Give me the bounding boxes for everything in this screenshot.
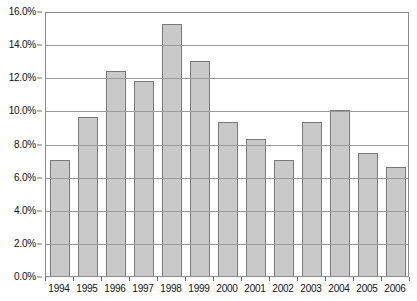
gridline (46, 178, 408, 179)
x-tick-mark (101, 277, 102, 281)
gridline (46, 111, 408, 112)
x-tick-mark (409, 277, 410, 281)
y-tick-mark (37, 111, 42, 112)
y-tick-label: 8.0% (14, 140, 36, 150)
x-tick-mark (325, 277, 326, 281)
x-tick-label: 2001 (244, 283, 265, 295)
x-tick-label: 2003 (300, 283, 321, 295)
bar (386, 167, 406, 276)
x-tick-label: 1997 (132, 283, 153, 295)
bar (358, 153, 378, 276)
x-tick-mark (353, 277, 354, 281)
y-tick-mark (37, 277, 42, 278)
x-tick-mark (45, 277, 46, 281)
y-tick-label: 16.0% (9, 7, 36, 17)
y-tick-mark (37, 177, 42, 178)
gridline (46, 45, 408, 46)
x-tick-mark (185, 277, 186, 281)
y-tick-label: 14.0% (9, 40, 36, 50)
x-tick-label: 2005 (356, 283, 377, 295)
bar-chart: 0.0%2.0%4.0%6.0%8.0%10.0%12.0%14.0%16.0%… (0, 0, 417, 301)
x-tick-label: 1995 (76, 283, 97, 295)
x-tick-label: 1994 (48, 283, 69, 295)
x-tick-label: 1996 (104, 283, 125, 295)
x-tick-mark (381, 277, 382, 281)
y-axis: 0.0%2.0%4.0%6.0%8.0%10.0%12.0%14.0%16.0% (0, 0, 45, 301)
y-tick-label: 0.0% (14, 272, 36, 282)
y-tick-mark (37, 210, 42, 211)
x-tick-label: 1998 (160, 283, 181, 295)
gridline (46, 78, 408, 79)
x-tick-mark (297, 277, 298, 281)
x-tick-mark (213, 277, 214, 281)
y-tick-mark (37, 144, 42, 145)
plot-area (45, 12, 409, 277)
x-tick-label: 1999 (188, 283, 209, 295)
x-tick-label: 2006 (384, 283, 405, 295)
x-tick-label: 2004 (328, 283, 349, 295)
bar (106, 71, 126, 276)
y-tick-label: 12.0% (9, 73, 36, 83)
x-tick-mark (73, 277, 74, 281)
x-tick-mark (269, 277, 270, 281)
x-tick-mark (157, 277, 158, 281)
bar (162, 24, 182, 276)
y-tick-label: 10.0% (9, 106, 36, 116)
x-axis: 1994199519961997199819992000200120022003… (45, 277, 409, 301)
y-tick-mark (37, 78, 42, 79)
gridline (46, 145, 408, 146)
y-tick-mark (37, 12, 42, 13)
x-tick-label: 2000 (216, 283, 237, 295)
x-tick-label: 2002 (272, 283, 293, 295)
x-tick-mark (129, 277, 130, 281)
y-tick-label: 6.0% (14, 173, 36, 183)
x-tick-mark (241, 277, 242, 281)
bar (246, 139, 266, 276)
y-tick-label: 2.0% (14, 239, 36, 249)
bar (78, 117, 98, 276)
bar (330, 110, 350, 276)
gridline (46, 244, 408, 245)
y-tick-mark (37, 45, 42, 46)
y-tick-label: 4.0% (14, 206, 36, 216)
gridline (46, 211, 408, 212)
y-tick-mark (37, 243, 42, 244)
